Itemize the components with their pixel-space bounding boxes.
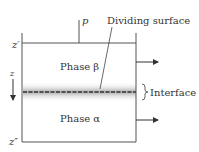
pressure-label: p	[82, 15, 89, 26]
z-top-label: z′	[11, 39, 20, 50]
phase-alpha-label: Phase α	[60, 113, 100, 124]
z-bottom-label: z″	[8, 136, 18, 147]
dividing-surface-leader	[100, 27, 112, 89]
z-axis-label: z	[9, 69, 15, 78]
interface-brace-icon	[142, 84, 148, 100]
phase-interface-diagram: p z′ z″ z Phase β Phase α Dividing surfa…	[0, 0, 199, 152]
dividing-surface-label: Dividing surface	[107, 15, 190, 26]
interface-label: Interface	[150, 87, 196, 98]
phase-beta-label: Phase β	[60, 61, 99, 72]
